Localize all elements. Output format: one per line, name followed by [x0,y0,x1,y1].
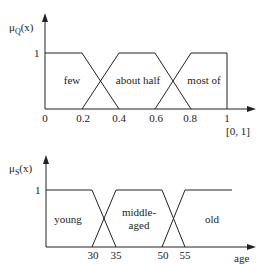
top-tick-0.2: 0.2 [76,113,90,124]
bottom-x-label: age [234,253,249,264]
top-x-arrow-icon [247,106,256,112]
bottom-y-label: μS(x) [9,163,32,178]
top-tick-0.6: 0.6 [149,113,163,124]
label-most-of: most of [187,75,220,86]
top-tick-0: 0 [42,113,48,124]
top-y-label: μQ(x) [9,22,34,37]
bottom-tick-35: 35 [111,250,122,261]
label-middle-aged-2: aged [129,220,150,231]
top-y-tick-1: 1 [34,48,40,59]
top-range-label: [0, 1] [226,126,250,137]
label-old: old [205,214,219,225]
bottom-tick-30: 30 [88,250,99,261]
top-tick-1: 1 [224,113,230,124]
bottom-tick-50: 50 [158,250,169,261]
few-curve [45,53,119,109]
bottom-x-arrow-icon [247,244,256,250]
bottom-y-tick-1: 1 [35,185,41,196]
label-few: few [64,75,81,86]
old-curve [162,190,232,247]
bottom-y-arrow-icon [43,155,49,164]
label-middle-aged-1: middle- [122,207,156,218]
label-young: young [54,214,82,225]
bottom-tick-55: 55 [180,250,191,261]
top-tick-0.8: 0.8 [183,113,197,124]
label-about-half: about half [116,75,160,86]
top-tick-0.4: 0.4 [112,113,126,124]
top-y-arrow-icon [42,13,48,22]
